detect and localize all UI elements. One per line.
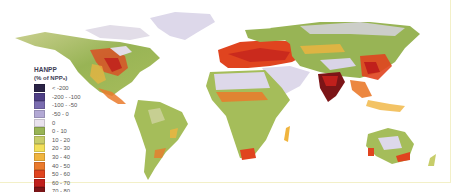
legend-label: 60 - 70 — [52, 180, 70, 186]
legend-item: 50 - 60 — [34, 170, 104, 179]
legend-swatch — [34, 101, 45, 109]
legend-swatch — [34, 144, 45, 152]
legend-swatch — [34, 162, 45, 170]
legend-label: 50 - 60 — [52, 171, 70, 177]
legend-title: HANPP — [34, 66, 104, 74]
legend-label: 70 - 80 — [52, 188, 70, 192]
legend-item: -50 - 0 — [34, 110, 104, 119]
legend-item: 0 — [34, 118, 104, 127]
legend-item: -200 - -100 — [34, 93, 104, 102]
legend-swatch — [34, 84, 45, 92]
legend-label: 0 - 10 — [52, 128, 67, 134]
legend-label: -200 - -100 — [52, 94, 80, 100]
legend-swatch — [34, 187, 45, 192]
legend-item: 10 - 20 — [34, 136, 104, 145]
legend-swatch — [34, 127, 45, 135]
legend-label: 20 - 30 — [52, 145, 70, 151]
legend-swatch — [34, 179, 45, 187]
new-zealand — [428, 154, 436, 166]
southeast-asia — [350, 80, 372, 98]
legend-label: 0 — [52, 120, 55, 126]
legend-item: 70 - 80 — [34, 187, 104, 192]
map-legend: HANPP (% of NPP₀) < -200-200 - -100-100 … — [34, 66, 104, 192]
legend-subtitle: (% of NPP₀) — [34, 74, 104, 82]
legend-swatch — [34, 110, 45, 118]
legend-label: < -200 — [52, 85, 69, 91]
legend-item: 0 - 10 — [34, 127, 104, 136]
legend-swatch — [34, 170, 45, 178]
legend-item: 20 - 30 — [34, 144, 104, 153]
legend-label: 30 - 40 — [52, 154, 70, 160]
legend-item: -100 - -50 — [34, 101, 104, 110]
legend-label: 10 - 20 — [52, 137, 70, 143]
legend-swatch — [34, 119, 45, 127]
madagascar — [284, 126, 290, 142]
legend-swatch — [34, 136, 45, 144]
greenland — [150, 12, 215, 40]
legend-item: 60 - 70 — [34, 179, 104, 188]
legend-label: -50 - 0 — [52, 111, 69, 117]
legend-item: 40 - 50 — [34, 161, 104, 170]
legend-item: 30 - 40 — [34, 153, 104, 162]
legend-label: 40 - 50 — [52, 163, 70, 169]
legend-swatch — [34, 153, 45, 161]
arctic-islands — [85, 25, 150, 40]
legend-swatch — [34, 93, 45, 101]
legend-item: < -200 — [34, 84, 104, 93]
legend-label: -100 - -50 — [52, 102, 77, 108]
